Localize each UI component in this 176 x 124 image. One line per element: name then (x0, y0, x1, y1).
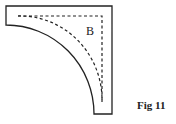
piece-label: B (86, 24, 94, 39)
template-outline (6, 6, 112, 114)
figure-caption: Fig 11 (137, 99, 165, 111)
